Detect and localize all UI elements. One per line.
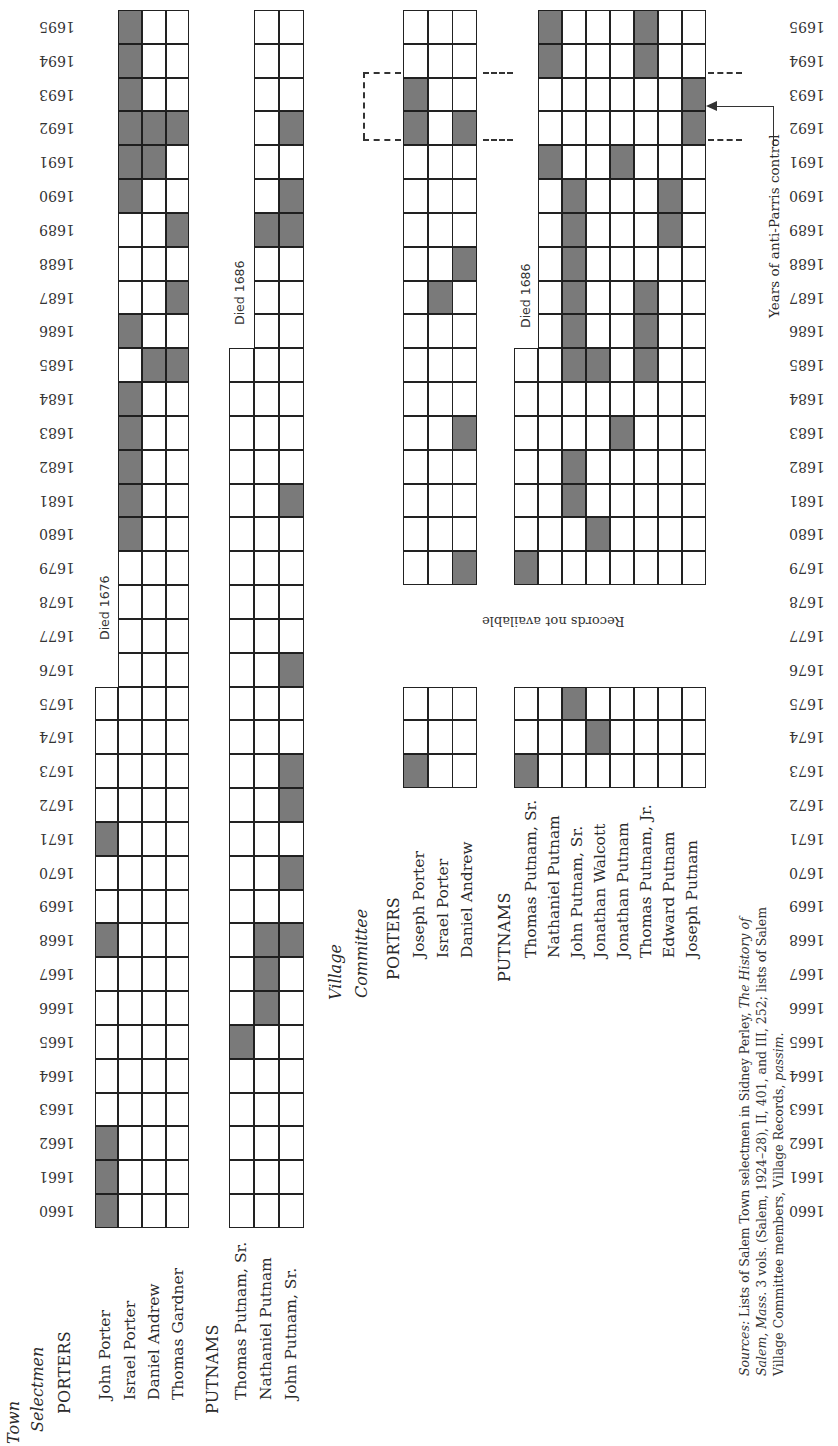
cell-town-thomas-gardner-1690: [166, 179, 189, 213]
cell-town-daniel-andrew-1679: [142, 551, 166, 585]
cell-village-thomas-putnam-jr-1691: [634, 145, 658, 179]
cell-town-thomas-putnam-sr-1682: [229, 450, 254, 484]
cell-town-john-porter-1674: [95, 720, 118, 754]
year-label-1663: 1663: [37, 1100, 77, 1118]
cell-village-jonathan-walcott-1684: [586, 382, 610, 416]
sources-line-3: Village Committee members, Village Recor…: [770, 907, 787, 1376]
town-title-line1: Town: [4, 1401, 23, 1444]
anti-parris-bottom-dash-right: [708, 139, 742, 141]
cell-village-daniel-andrew-1692: [452, 111, 477, 145]
cell-village-jonathan-walcott-1687: [586, 281, 610, 315]
cell-town-john-putnam-sr-1679: [279, 551, 304, 585]
cell-town-john-putnam-sr-1663: [279, 1093, 304, 1127]
cell-town-thomas-gardner-1661: [166, 1160, 189, 1194]
sources-text-1b: The History of: [737, 917, 752, 1008]
cell-village-john-putnam-sr-1683: [562, 416, 586, 450]
cell-town-daniel-andrew-1660: [142, 1194, 166, 1228]
cell-village-thomas-putnam-sr-1673: [514, 754, 538, 788]
cell-village-nathaniel-putnam-1686: [538, 314, 562, 348]
year-label-1663: 1663: [787, 1100, 827, 1118]
town-name-thomas-gardner: Thomas Gardner: [169, 1268, 187, 1400]
cell-village-joseph-porter-1689: [403, 213, 428, 247]
cell-town-israel-porter-1695: [118, 10, 142, 44]
died-1686-village-label: Died 1686: [518, 263, 533, 328]
cell-village-thomas-putnam-jr-1681: [634, 484, 658, 518]
cell-village-daniel-andrew-1687: [452, 281, 477, 315]
year-label-1689: 1689: [37, 221, 77, 239]
cell-village-israel-porter-1684: [428, 382, 453, 416]
cell-village-john-putnam-sr-1685: [562, 348, 586, 382]
cell-village-joseph-putnam-1682: [682, 450, 706, 484]
cell-town-israel-porter-1678: [118, 585, 142, 619]
cell-village-nathaniel-putnam-1683: [538, 416, 562, 450]
cell-village-jonathan-walcott-1694: [586, 44, 610, 78]
cell-village-joseph-porter-1674: [403, 720, 428, 754]
cell-village-daniel-andrew-1691: [452, 145, 477, 179]
cell-village-john-putnam-sr-1679: [562, 551, 586, 585]
cell-town-john-putnam-sr-1676: [279, 653, 304, 687]
cell-town-daniel-andrew-1672: [142, 788, 166, 822]
cell-town-nathaniel-putnam-1680: [254, 517, 279, 551]
year-label-1666: 1666: [787, 999, 827, 1017]
anti-parris-left-dash: [363, 72, 365, 139]
cell-town-israel-porter-1663: [118, 1093, 142, 1127]
cell-village-joseph-putnam-1689: [682, 213, 706, 247]
cell-town-john-putnam-sr-1670: [279, 856, 304, 890]
cell-village-thomas-putnam-sr-1681: [514, 484, 538, 518]
cell-town-john-putnam-sr-1683: [279, 416, 304, 450]
cell-town-thomas-putnam-sr-1684: [229, 382, 254, 416]
cell-town-john-porter-1668: [95, 923, 118, 957]
cell-town-nathaniel-putnam-1668: [254, 923, 279, 957]
cell-town-israel-porter-1671: [118, 822, 142, 856]
year-label-1666: 1666: [37, 999, 77, 1017]
cell-town-daniel-andrew-1695: [142, 10, 166, 44]
year-label-1665: 1665: [787, 1033, 827, 1051]
cell-town-daniel-andrew-1662: [142, 1126, 166, 1160]
cell-town-john-porter-1672: [95, 788, 118, 822]
town-title-line2: Selectmen: [28, 1347, 47, 1432]
cell-town-john-putnam-sr-1677: [279, 619, 304, 653]
cell-town-john-putnam-sr-1665: [279, 1025, 304, 1059]
year-label-1687: 1687: [787, 289, 827, 307]
cell-town-daniel-andrew-1685: [142, 348, 166, 382]
year-label-1676: 1676: [787, 661, 827, 679]
figure-stage: 1660166116621663166416651666166716681669…: [0, 0, 838, 1446]
cell-town-nathaniel-putnam-1685: [254, 348, 279, 382]
cell-village-joseph-porter-1695: [403, 10, 428, 44]
cell-town-daniel-andrew-1688: [142, 247, 166, 281]
cell-town-john-putnam-sr-1674: [279, 720, 304, 754]
year-label-1686: 1686: [37, 322, 77, 340]
cell-town-daniel-andrew-1689: [142, 213, 166, 247]
cell-town-nathaniel-putnam-1667: [254, 957, 279, 991]
cell-village-jonathan-putnam-1693: [610, 78, 634, 112]
cell-town-thomas-putnam-sr-1674: [229, 720, 254, 754]
year-label-1664: 1664: [787, 1067, 827, 1085]
year-label-1664: 1664: [37, 1067, 77, 1085]
cell-town-israel-porter-1672: [118, 788, 142, 822]
cell-village-john-putnam-sr-1673: [562, 754, 586, 788]
year-label-1660: 1660: [787, 1202, 827, 1220]
cell-town-thomas-gardner-1689: [166, 213, 189, 247]
cell-village-jonathan-walcott-1686: [586, 314, 610, 348]
cell-town-thomas-putnam-sr-1672: [229, 788, 254, 822]
cell-town-john-putnam-sr-1672: [279, 788, 304, 822]
cell-town-nathaniel-putnam-1690: [254, 179, 279, 213]
cell-village-daniel-andrew-1694: [452, 44, 477, 78]
cell-town-thomas-putnam-sr-1664: [229, 1059, 254, 1093]
cell-town-john-porter-1665: [95, 1025, 118, 1059]
cell-town-daniel-andrew-1687: [142, 281, 166, 315]
cell-town-nathaniel-putnam-1677: [254, 619, 279, 653]
cell-village-joseph-putnam-1680: [682, 517, 706, 551]
cell-town-thomas-putnam-sr-1675: [229, 687, 254, 721]
cell-village-john-putnam-sr-1681: [562, 484, 586, 518]
town-name-john-porter: John Porter: [96, 1310, 114, 1400]
village-porters-group-label: PORTERS: [384, 897, 403, 980]
cell-town-daniel-andrew-1667: [142, 957, 166, 991]
cell-village-joseph-porter-1692: [403, 111, 428, 145]
cell-town-israel-porter-1662: [118, 1126, 142, 1160]
cell-village-thomas-putnam-jr-1688: [634, 247, 658, 281]
town-putnams-group-label: PUTNAMS: [203, 1324, 222, 1414]
cell-town-daniel-andrew-1678: [142, 585, 166, 619]
cell-town-thomas-gardner-1686: [166, 314, 189, 348]
town-porters-group-label: PORTERS: [55, 1331, 74, 1414]
